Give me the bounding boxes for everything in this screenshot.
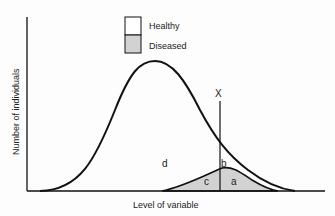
region-b-label: b [221, 158, 227, 169]
legend: Healthy Diseased [125, 17, 187, 53]
y-axis-label: Number of individuals [11, 68, 21, 155]
legend-swatch-healthy [125, 17, 141, 35]
legend-label-healthy: Healthy [149, 21, 180, 31]
legend-label-diseased: Diseased [149, 41, 187, 51]
region-c-label: c [204, 176, 209, 187]
threshold-label: X [215, 88, 222, 99]
diagnostic-threshold-diagram: X d b c a Healthy Diseased Level of vari… [0, 0, 335, 216]
region-a-label: a [231, 176, 237, 187]
legend-swatch-diseased [125, 35, 141, 53]
healthy-curve [40, 61, 295, 191]
x-axis-label: Level of variable [133, 200, 199, 210]
region-d-label: d [162, 158, 168, 169]
